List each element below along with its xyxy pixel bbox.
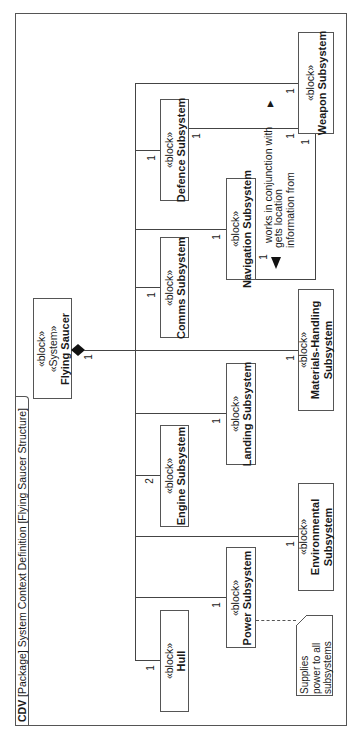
composition-line (84, 350, 298, 351)
mult-assoc2-navigation: 1 (259, 254, 269, 260)
stereotype: «block» (162, 643, 174, 679)
block-landing-subsystem[interactable]: «block» Landing Subsystem (226, 363, 256, 465)
assoc-weapon-nav-vertical (315, 134, 316, 279)
branch-engine (135, 475, 160, 476)
mult-assoc2-weapon: 1 (301, 139, 311, 145)
line-bus-to-power (135, 597, 226, 598)
block-name: Weapon Subsystem (316, 31, 329, 135)
block-name-line2: Subsystem (322, 321, 335, 380)
block-name-line1: Environmental (309, 499, 322, 575)
branch-defence (135, 150, 160, 151)
block-flying-saucer[interactable]: «block» «System» Flying Saucer (33, 298, 72, 399)
multiplicity-weapon: 1 (286, 88, 296, 94)
stereotype: «block» (229, 396, 241, 432)
block-name: Power Subsystem (241, 550, 254, 645)
stereotype: «block» (304, 65, 316, 101)
multiplicity-navigation: 1 (212, 234, 222, 240)
assoc-label-gets-location-line1: gets location (272, 189, 285, 248)
stereotype: «block» (297, 519, 309, 555)
frame-element-type: [Package] (16, 650, 28, 697)
mult-assoc1-weapon: 1 (286, 133, 296, 139)
stereotype-system: «System» (46, 325, 58, 372)
assoc-weapon-nav-horizontal (256, 279, 316, 280)
block-hull[interactable]: «block» Hull (160, 610, 189, 712)
block-name: Engine Subsystem (174, 427, 187, 525)
multiplicity-engine: 2 (145, 478, 155, 484)
triangle-down-icon (271, 257, 281, 269)
branch-comms (135, 287, 160, 288)
block-environmental-subsystem[interactable]: «block» Environmental Subsystem (298, 483, 334, 591)
block-power-subsystem[interactable]: «block» Power Subsystem (226, 547, 256, 648)
multiplicity-hull: 1 (146, 665, 156, 671)
assoc-label-gets-location-line2: information from (284, 172, 297, 248)
multiplicity-environmental: 1 (286, 541, 296, 547)
multiplicity-comms: 1 (147, 292, 157, 298)
stereotype: «block» (229, 211, 241, 247)
block-materials-handling-subsystem[interactable]: «block» Materials-Handling Subsystem (298, 289, 334, 411)
line-bus-to-navigation (135, 229, 226, 230)
stereotype: «block» (162, 269, 174, 305)
block-name: Hull (174, 651, 187, 672)
note-fold-icon (296, 615, 308, 627)
block-name: Landing Subsystem (241, 362, 254, 467)
stereotype-block: «block» (34, 330, 46, 366)
block-name: Comms Subsystem (174, 236, 187, 338)
multiplicity-power: 1 (212, 602, 222, 608)
note-anchor-line (256, 620, 296, 621)
block-name: Navigation Subsystem (241, 170, 254, 288)
block-defence-subsystem[interactable]: «block» Defence Subsystem (160, 99, 189, 201)
block-navigation-subsystem[interactable]: «block» Navigation Subsystem (226, 178, 256, 280)
block-comms-subsystem[interactable]: «block» Comms Subsystem (160, 237, 189, 338)
stereotype: «block» (297, 332, 309, 368)
frame-title: System Context Definition [Flying Saucer… (16, 408, 28, 647)
stereotype: «block» (229, 579, 241, 615)
line-bus-to-landing (135, 413, 226, 414)
line-bus-to-environmental (135, 536, 298, 537)
block-engine-subsystem[interactable]: «block» Engine Subsystem (160, 425, 189, 527)
stereotype: «block» (162, 458, 174, 494)
block-weapon-subsystem[interactable]: «block» Weapon Subsystem (298, 32, 334, 134)
block-name-line2: Subsystem (322, 508, 335, 567)
multiplicity-materials: 1 (286, 355, 296, 361)
bus-top-connector (135, 83, 218, 84)
bus-line-1 (135, 83, 136, 660)
block-name-line1: Materials-Handling (309, 301, 322, 399)
block-name: Defence Subsystem (174, 98, 187, 203)
block-name: Flying Saucer (58, 312, 71, 384)
multiplicity-defence: 1 (147, 155, 157, 161)
multiplicity-system: 1 (84, 354, 94, 360)
frame-kind: CDV (16, 700, 28, 722)
frame-header: CDV [Package] System Context Definition … (16, 408, 28, 722)
stereotype: «block» (162, 132, 174, 168)
multiplicity-landing: 1 (212, 418, 222, 424)
direction-triangle-left-icon (271, 255, 281, 273)
direction-triangle-up-icon: ▲ (265, 98, 276, 109)
branch-bus-bottom (135, 660, 160, 661)
assoc-defence-weapon (189, 128, 298, 129)
note-text: Supplies power to all subsystems (299, 641, 334, 694)
line-bus-to-weapon (218, 83, 298, 84)
mult-assoc1-defence: 1 (192, 133, 202, 139)
